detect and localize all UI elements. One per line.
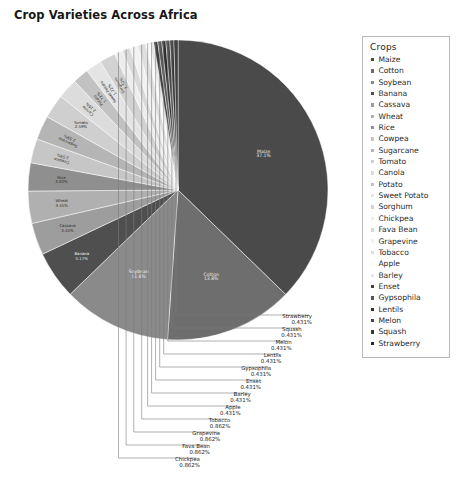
- callout-label-lentils: Lentils0.431%: [261, 352, 282, 364]
- callout-label-name: Apple: [225, 404, 241, 411]
- legend-item-label: Cotton: [378, 65, 403, 76]
- legend-item-label: Melon: [378, 315, 401, 326]
- legend-item-label: Squash: [378, 326, 406, 337]
- legend-item-canola[interactable]: Canola: [368, 167, 444, 178]
- callout-label-name: Gypsophila: [241, 365, 271, 372]
- legend-item-label: Fava Bean: [378, 224, 417, 235]
- legend-item-label: Cowpea: [378, 133, 408, 144]
- legend-swatch-icon: [371, 92, 374, 95]
- legend-item-banana[interactable]: Banana: [368, 88, 444, 99]
- legend-item-label: Rice: [378, 122, 394, 133]
- legend-item-label: Soybean: [378, 77, 411, 88]
- callout-label-pct: 0.862%: [189, 449, 210, 455]
- slice-label-pct: 11.6%: [131, 274, 146, 279]
- legend-item-label: Sweet Potato: [378, 190, 428, 201]
- legend-swatch-icon: [371, 194, 374, 197]
- legend-item-grapevine[interactable]: Grapevine: [368, 236, 444, 247]
- legend-swatch-icon: [371, 58, 374, 61]
- legend-item-chickpea[interactable]: Chickpea: [368, 213, 444, 224]
- legend-item-label: Barley: [378, 270, 402, 281]
- legend-item-enset[interactable]: Enset: [368, 281, 444, 292]
- legend-item-maize[interactable]: Maize: [368, 54, 444, 65]
- legend-swatch-icon: [371, 296, 374, 299]
- callout-label-name: Chickpea: [175, 456, 200, 463]
- legend-swatch-icon: [371, 126, 374, 129]
- legend-item-tobacco[interactable]: Tobacco: [368, 247, 444, 258]
- legend-item-label: Potato: [378, 179, 402, 190]
- legend-swatch-icon: [371, 171, 374, 174]
- legend-item-label: Banana: [378, 88, 407, 99]
- legend-swatch-icon: [371, 160, 374, 163]
- callout-label-name: Enset: [246, 378, 261, 384]
- legend-item-label: Gypsophila: [378, 292, 420, 303]
- legend-item-sweet-potato[interactable]: Sweet Potato: [368, 190, 444, 201]
- legend-swatch-icon: [371, 69, 374, 72]
- callout-label-name: Fava Bean: [182, 443, 210, 449]
- legend-item-strawberry[interactable]: Strawberry: [368, 338, 444, 349]
- callout-label-pct: 0.862%: [210, 423, 231, 429]
- legend-item-cassava[interactable]: Cassava: [368, 99, 444, 110]
- callout-label-barley: Barley0.431%: [230, 391, 251, 403]
- slice-label-pct: 3.02%: [55, 179, 68, 184]
- pie-label-wheat: Wheat3.45%: [55, 198, 68, 208]
- callout-label-fava-bean: Fava Bean0.862%: [182, 443, 210, 455]
- pie-label-banana: Banana5.17%: [74, 251, 89, 261]
- legend-item-lentils[interactable]: Lentils: [368, 304, 444, 315]
- legend-item-cotton[interactable]: Cotton: [368, 65, 444, 76]
- legend-swatch-icon: [371, 274, 374, 277]
- legend-item-label: Tomato: [378, 156, 406, 167]
- legend-item-tomato[interactable]: Tomato: [368, 156, 444, 167]
- legend-item-label: Tobacco: [378, 247, 408, 258]
- callout-label-pct: 0.431%: [220, 410, 241, 416]
- legend-item-gypsophila[interactable]: Gypsophila: [368, 292, 444, 303]
- pie-chart-svg: Maize37.1%Cotton13.8%Soybean11.6%Banana5…: [18, 38, 348, 348]
- legend-swatch-icon: [371, 115, 374, 118]
- slice-label-pct: 3.45%: [61, 228, 74, 233]
- page-title: Crop Varieties Across Africa: [14, 8, 198, 22]
- legend-item-label: Apple: [378, 258, 400, 269]
- legend-item-barley[interactable]: Barley: [368, 270, 444, 281]
- legend-item-cowpea[interactable]: Cowpea: [368, 133, 444, 144]
- callout-label-pct: 0.431%: [240, 384, 261, 390]
- slice-label-pct: 13.8%: [204, 277, 219, 282]
- legend-item-sugarcane[interactable]: Sugarcane: [368, 145, 444, 156]
- legend-item-squash[interactable]: Squash: [368, 326, 444, 337]
- legend-item-wheat[interactable]: Wheat: [368, 111, 444, 122]
- legend-item-label: Chickpea: [378, 213, 413, 224]
- legend-item-fava-bean[interactable]: Fava Bean: [368, 224, 444, 235]
- callout-label-grapevine: Grapevine0.862%: [192, 430, 221, 442]
- legend-swatch-icon: [371, 81, 374, 84]
- slice-label-pct: 37.1%: [256, 153, 271, 158]
- callout-label-pct: 0.431%: [251, 371, 272, 377]
- legend-swatch-icon: [371, 285, 374, 288]
- pie-chart: Maize37.1%Cotton13.8%Soybean11.6%Banana5…: [18, 38, 348, 348]
- legend-item-label: Enset: [378, 281, 399, 292]
- slice-label-pct: 2.59%: [75, 124, 88, 129]
- callout-label-chickpea: Chickpea0.862%: [175, 456, 200, 468]
- legend-item-soybean[interactable]: Soybean: [368, 77, 444, 88]
- pie-label-soybean: Soybean11.6%: [129, 269, 149, 279]
- legend-item-label: Grapevine: [378, 236, 417, 247]
- callout-label-tobacco: Tobacco0.862%: [208, 417, 231, 429]
- callout-label-name: Tobacco: [208, 417, 231, 423]
- legend-item-label: Sorghum: [378, 201, 412, 212]
- callout-label-name: Grapevine: [192, 430, 221, 437]
- pie-label-maize: Maize37.1%: [256, 149, 271, 159]
- legend-item-melon[interactable]: Melon: [368, 315, 444, 326]
- legend-swatch-icon: [371, 217, 374, 220]
- legend-swatch-icon: [371, 308, 374, 311]
- legend-item-potato[interactable]: Potato: [368, 179, 444, 190]
- legend-item-list: MaizeCottonSoybeanBananaCassavaWheatRice…: [368, 54, 444, 349]
- slice-label-pct: 3.45%: [56, 203, 69, 208]
- legend-item-sorghum[interactable]: Sorghum: [368, 201, 444, 212]
- legend-item-label: Strawberry: [378, 338, 420, 349]
- legend-item-label: Wheat: [378, 111, 403, 122]
- legend-item-label: Sugarcane: [378, 145, 418, 156]
- legend-item-label: Lentils: [378, 304, 403, 315]
- callout-label-gypsophila: Gypsophila0.431%: [241, 365, 271, 377]
- pie-label-tomato: Tomato2.59%: [73, 120, 89, 130]
- legend-swatch-icon: [371, 251, 374, 254]
- legend-swatch-icon: [371, 137, 374, 140]
- legend-item-apple[interactable]: Apple: [368, 258, 444, 269]
- legend-item-rice[interactable]: Rice: [368, 122, 444, 133]
